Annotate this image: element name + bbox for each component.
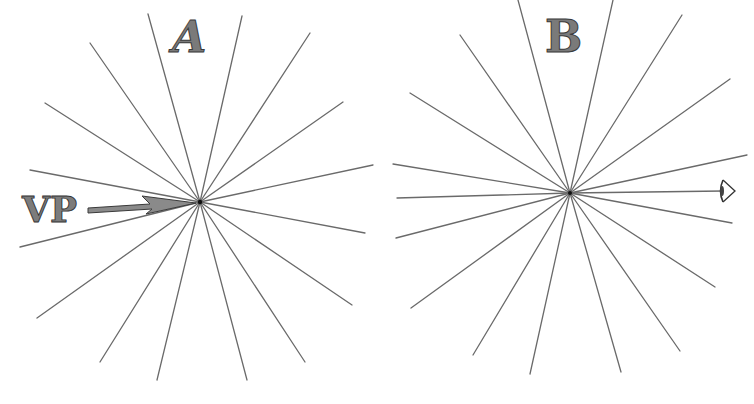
ray-line [410, 93, 570, 193]
ray-line [200, 202, 305, 362]
ray-line [570, 15, 682, 193]
ray-line [200, 202, 365, 233]
ray-line [473, 193, 570, 355]
eye-icon [720, 180, 735, 202]
panel-a-label: A [166, 10, 214, 61]
ray-line [393, 164, 570, 193]
ray-line [570, 191, 723, 193]
ray-line [570, 193, 680, 351]
ray-line [570, 193, 715, 287]
perspective-diagram: A VP B [0, 0, 754, 404]
ray-line [100, 202, 200, 362]
ray-line [411, 193, 570, 308]
panel-b: B [393, 0, 747, 374]
ray-line [396, 193, 570, 238]
ray-line [200, 33, 310, 202]
panel-a: A VP [20, 10, 373, 380]
ray-line [200, 16, 242, 202]
ray-line [397, 193, 570, 198]
vanishing-point-b [568, 191, 572, 195]
panel-b-label: B [545, 11, 582, 62]
vanishing-point-a [198, 200, 202, 204]
ray-line [530, 193, 570, 374]
ray-line [570, 193, 621, 372]
ray-line [90, 43, 200, 202]
vp-label: VP [21, 188, 77, 230]
